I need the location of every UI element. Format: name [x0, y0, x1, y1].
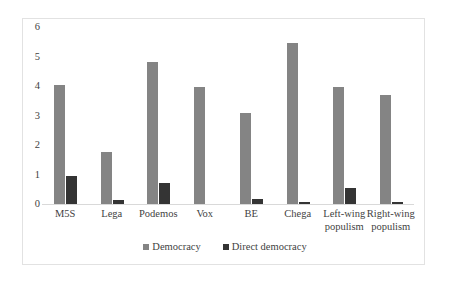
y-axis-tick-label: 5 [22, 51, 40, 62]
y-axis-tick-label: 2 [22, 140, 40, 151]
bar-group-bars [275, 27, 322, 204]
bar-direct-democracy [299, 202, 310, 204]
bar-democracy [333, 87, 344, 204]
y-axis-tick-label: 4 [22, 81, 40, 92]
bar-group-bars [228, 27, 275, 204]
bar-direct-democracy [113, 200, 124, 204]
bar-direct-democracy [392, 202, 403, 204]
bar-democracy [194, 87, 205, 204]
bar-democracy [287, 43, 298, 204]
y-axis-tick-label: 3 [22, 110, 40, 121]
bar-group [182, 27, 229, 204]
bar-group [135, 27, 182, 204]
plot-area [42, 27, 414, 204]
bar-democracy [147, 62, 158, 204]
bar-direct-democracy [252, 199, 263, 204]
bar-group-bars [89, 27, 136, 204]
x-axis-category-label: Right-wing populism [364, 208, 419, 233]
x-axis-baseline [42, 204, 414, 205]
bar-direct-democracy [66, 176, 77, 204]
bar-democracy [240, 113, 251, 204]
bar-group-bars [321, 27, 368, 204]
y-axis-tick-label: 1 [22, 169, 40, 180]
bar-democracy [101, 152, 112, 205]
bar-group [275, 27, 322, 204]
legend-item[interactable]: Democracy [143, 241, 200, 252]
bar-group [368, 27, 415, 204]
bar-group-bars [135, 27, 182, 204]
bar-group-bars [368, 27, 415, 204]
bar-direct-democracy [159, 183, 170, 204]
chart-legend: DemocracyDirect democracy [0, 241, 450, 252]
bar-group [42, 27, 89, 204]
bar-democracy [54, 85, 65, 204]
bar-group [89, 27, 136, 204]
bar-democracy [380, 95, 391, 204]
bar-group-bars [42, 27, 89, 204]
legend-label: Democracy [152, 241, 200, 252]
legend-swatch-icon [223, 244, 229, 250]
bar-group [228, 27, 275, 204]
legend-item[interactable]: Direct democracy [223, 241, 307, 252]
bar-group-bars [182, 27, 229, 204]
legend-label: Direct democracy [232, 241, 307, 252]
y-axis-tick-label: 6 [22, 22, 40, 33]
bar-group [321, 27, 368, 204]
bar-direct-democracy [345, 188, 356, 204]
legend-swatch-icon [143, 244, 149, 250]
bar-chart: 0123456 DemocracyDirect democracy M5SLeg… [0, 0, 450, 287]
